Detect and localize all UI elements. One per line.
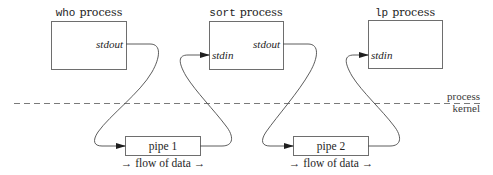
lp-process-label: process: [392, 6, 435, 19]
who-process-label: process: [79, 6, 122, 19]
sort-process-label: process: [240, 6, 283, 19]
kernel-space-label: kernel: [453, 102, 480, 114]
lp-process-title: lpprocess: [375, 6, 435, 19]
process-space-label: process: [447, 90, 480, 102]
lp-process-box: [369, 21, 443, 69]
lp-command: lp: [375, 7, 388, 19]
sort-stdout-label: stdout: [253, 38, 281, 50]
sort-process: sortprocess stdin stdout: [209, 6, 283, 70]
pipe-1: pipe 1 → flow of data →: [121, 137, 205, 170]
pipe-2-label: pipe 2: [317, 140, 346, 153]
sort-stdin-label: stdin: [212, 49, 234, 61]
pipe-2-flow-label: → flow of data →: [289, 157, 373, 169]
who-process-title: whoprocess: [56, 6, 123, 19]
sort-command: sort: [209, 7, 235, 19]
pipeline-diagram: whoprocess stdout sortprocess stdin stdo…: [0, 0, 493, 175]
who-process: whoprocess stdout: [52, 6, 127, 70]
sort-process-title: sortprocess: [209, 6, 283, 19]
pipe-1-flow-label: → flow of data →: [121, 157, 205, 169]
who-stdout-label: stdout: [96, 38, 124, 50]
lp-stdin-label: stdin: [371, 49, 393, 61]
who-command: who: [56, 7, 76, 19]
lp-process: lpprocess stdin: [369, 6, 443, 69]
pipe-1-label: pipe 1: [149, 140, 178, 153]
pipe-2: pipe 2 → flow of data →: [289, 137, 373, 170]
